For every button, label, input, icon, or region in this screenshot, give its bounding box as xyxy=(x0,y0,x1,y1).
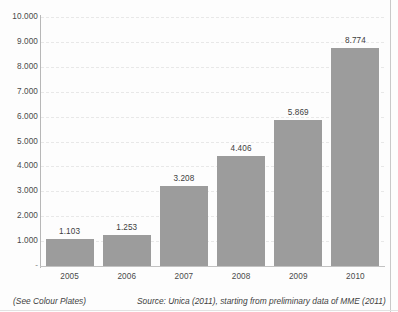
y-tick-label: 5.000 xyxy=(0,137,38,146)
bar xyxy=(331,48,379,266)
y-tick-label: 2.000 xyxy=(0,211,38,220)
x-axis-line xyxy=(40,266,385,267)
bar xyxy=(103,235,151,266)
y-tick-label: 3.000 xyxy=(0,186,38,195)
x-tick-label: 2010 xyxy=(331,272,379,281)
bar-value-label: 1.103 xyxy=(46,227,94,236)
x-tick-label: 2008 xyxy=(217,272,265,281)
y-tick-label: 9.000 xyxy=(0,37,38,46)
bar xyxy=(160,186,208,266)
bar xyxy=(217,156,265,266)
y-tick-label: 8.000 xyxy=(0,62,38,71)
x-tick-label: 2009 xyxy=(274,272,322,281)
y-tick-label: 6.000 xyxy=(0,112,38,121)
bar xyxy=(274,120,322,266)
bar-value-label: 5.869 xyxy=(274,108,322,117)
y-tick-label: 4.000 xyxy=(0,161,38,170)
x-tick-label: 2006 xyxy=(103,272,151,281)
bar-value-label: 3.208 xyxy=(160,174,208,183)
figure-page: -1.0002.0003.0004.0005.0006.0007.0008.00… xyxy=(0,0,398,312)
gridline xyxy=(41,17,384,18)
bar xyxy=(46,239,94,266)
y-tick-label: - xyxy=(0,261,38,270)
scan-edge-bottom xyxy=(0,310,398,311)
x-tick-label: 2007 xyxy=(160,272,208,281)
y-tick-label: 7.000 xyxy=(0,87,38,96)
bar-value-label: 4.406 xyxy=(217,144,265,153)
bar-chart: -1.0002.0003.0004.0005.0006.0007.0008.00… xyxy=(0,0,392,276)
bar-value-label: 1.253 xyxy=(103,223,151,232)
source-note: Source: Unica (2011), starting from prel… xyxy=(137,296,386,306)
y-tick-label: 10.000 xyxy=(0,12,38,21)
bar-value-label: 8.774 xyxy=(331,36,379,45)
x-tick-label: 2005 xyxy=(46,272,94,281)
colour-plates-note: (See Colour Plates) xyxy=(13,296,86,306)
y-tick-label: 1.000 xyxy=(0,236,38,245)
